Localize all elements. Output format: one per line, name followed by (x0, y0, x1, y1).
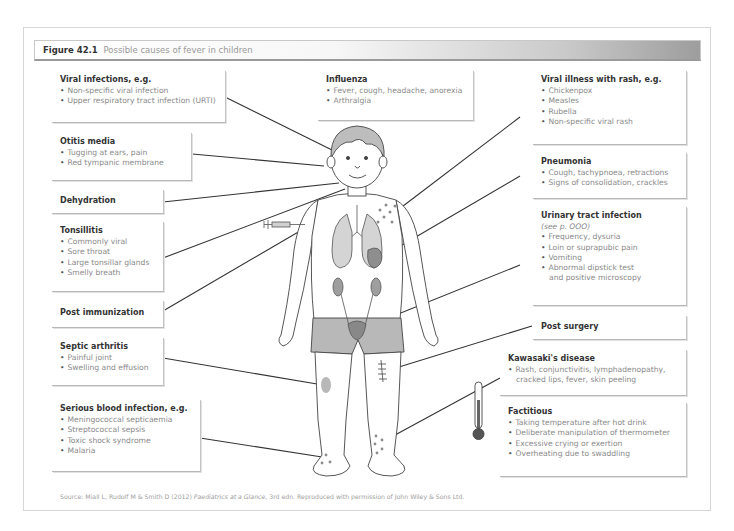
swollen-knee (321, 377, 331, 393)
box-viral-infections: Viral infections, e.g. Non-specific vira… (52, 71, 226, 123)
list-item: Cough, tachypnoea, retractions (541, 168, 680, 178)
list-item: Non-specific viral infection (60, 86, 219, 96)
list-item: Signs of consolidation, crackles (541, 178, 680, 188)
list-item: Commonly viral (60, 237, 157, 247)
right-leg (313, 352, 352, 476)
child-body (279, 126, 438, 476)
left-ear (379, 156, 387, 168)
list-item: Red tympanic membrane (60, 158, 185, 168)
box-tonsillitis: Tonsillitis Commonly viral Sore throat L… (52, 222, 164, 292)
list-item-continuation: and positive microscopy (541, 273, 680, 283)
box-heading: Factitious (508, 407, 680, 417)
box-heading: Urinary tract infection (541, 211, 680, 221)
box-heading: Viral illness with rash, e.g. (541, 75, 680, 85)
list-item: Measles (541, 96, 680, 106)
source-suffix: , 3rd edn. Reproduced with permission of… (265, 493, 464, 500)
list-item: Abnormal dipstick test (541, 263, 680, 273)
box-heading: Serious blood infection, e.g. (60, 404, 194, 414)
list-item: Overheating due to swaddling (508, 449, 680, 459)
list-item: Non-specific viral rash (541, 117, 680, 127)
box-post-surgery: Post surgery (533, 316, 687, 340)
list-item: Upper respiratory tract infection (URTI) (60, 96, 219, 106)
list-item: Toxic shock syndrome (60, 436, 194, 446)
box-influenza: Influenza Fever, cough, headache, anorex… (318, 71, 474, 121)
list-item: Fever, cough, headache, anorexia (326, 86, 467, 96)
box-heading: Otitis media (60, 137, 185, 147)
left-leg (364, 352, 405, 476)
page-reference: (see p. OOO) (541, 222, 680, 232)
list-item: Loin or suprapubic pain (541, 243, 680, 253)
list-item: Painful joint (60, 353, 157, 363)
box-heading: Post surgery (541, 320, 680, 334)
list-item: Malaria (60, 446, 194, 456)
list-item: Chickenpox (541, 86, 680, 96)
box-kawasaki: Kawasaki's disease Rash, conjunctivitis,… (500, 350, 687, 396)
connector-viral-rash (386, 117, 520, 219)
box-septic-arthritis: Septic arthritis Painful joint Swelling … (52, 338, 164, 386)
box-viral-rash: Viral illness with rash, e.g. Chickenpox… (533, 71, 687, 145)
source-prefix: Source: Miall L, Rudolf M & Smith D (201… (60, 493, 194, 500)
list-item: Rubella (541, 107, 680, 117)
box-dehydration: Dehydration (52, 190, 164, 214)
list-item: Sore throat (60, 247, 157, 257)
box-factitious: Factitious Taking temperature after hot … (500, 403, 687, 477)
list-item: Large tonsillar glands (60, 258, 157, 268)
list-item: Frequency, dysuria (541, 232, 680, 242)
list-item: Meningococcal septicaemia (60, 415, 194, 425)
connector-septic-arthritis (163, 358, 323, 385)
source-book-title: Paediatrics at a Glance (194, 493, 265, 500)
box-heading: Septic arthritis (60, 342, 157, 352)
list-item: Rash, conjunctivitis, lymphadenopathy, (508, 365, 680, 375)
list-item: Swelling and effusion (60, 363, 157, 373)
list-item: Taking temperature after hot drink (508, 418, 680, 428)
box-blood-infection: Serious blood infection, e.g. Meningococ… (52, 400, 201, 472)
box-otitis-media: Otitis media Tugging at ears, pain Red t… (52, 133, 192, 181)
box-heading: Influenza (326, 75, 467, 85)
connector-dehydration (163, 183, 339, 202)
box-pneumonia: Pneumonia Cough, tachypnoea, retractions… (533, 153, 687, 199)
box-heading: Post immunization (60, 305, 157, 321)
list-item: Arthralgia (326, 96, 467, 106)
box-heading: Dehydration (60, 194, 157, 208)
list-item: Tugging at ears, pain (60, 148, 185, 158)
list-item: Excessive crying or exertion (508, 439, 680, 449)
box-post-immunization: Post immunization (52, 301, 164, 328)
box-heading: Tonsillitis (60, 226, 157, 236)
list-item: Smelly breath (60, 268, 157, 278)
list-item-continuation: cracked lips, fever, skin peeling (508, 375, 680, 385)
list-item: Vomiting (541, 253, 680, 263)
box-heading: Viral infections, e.g. (60, 75, 219, 85)
thermometer-icon (473, 382, 484, 440)
box-heading: Pneumonia (541, 157, 680, 167)
right-ear (327, 156, 335, 168)
list-item: Streptococcal sepsis (60, 425, 194, 435)
box-heading: Kawasaki's disease (508, 354, 680, 364)
connector-otitis-media (192, 154, 324, 166)
box-uti: Urinary tract infection (see p. OOO) Fre… (533, 207, 687, 306)
connector-blood-infection (200, 438, 322, 457)
source-citation: Source: Miall L, Rudolf M & Smith D (201… (60, 493, 464, 500)
list-item: Deliberate manipulation of thermometer (508, 428, 680, 438)
